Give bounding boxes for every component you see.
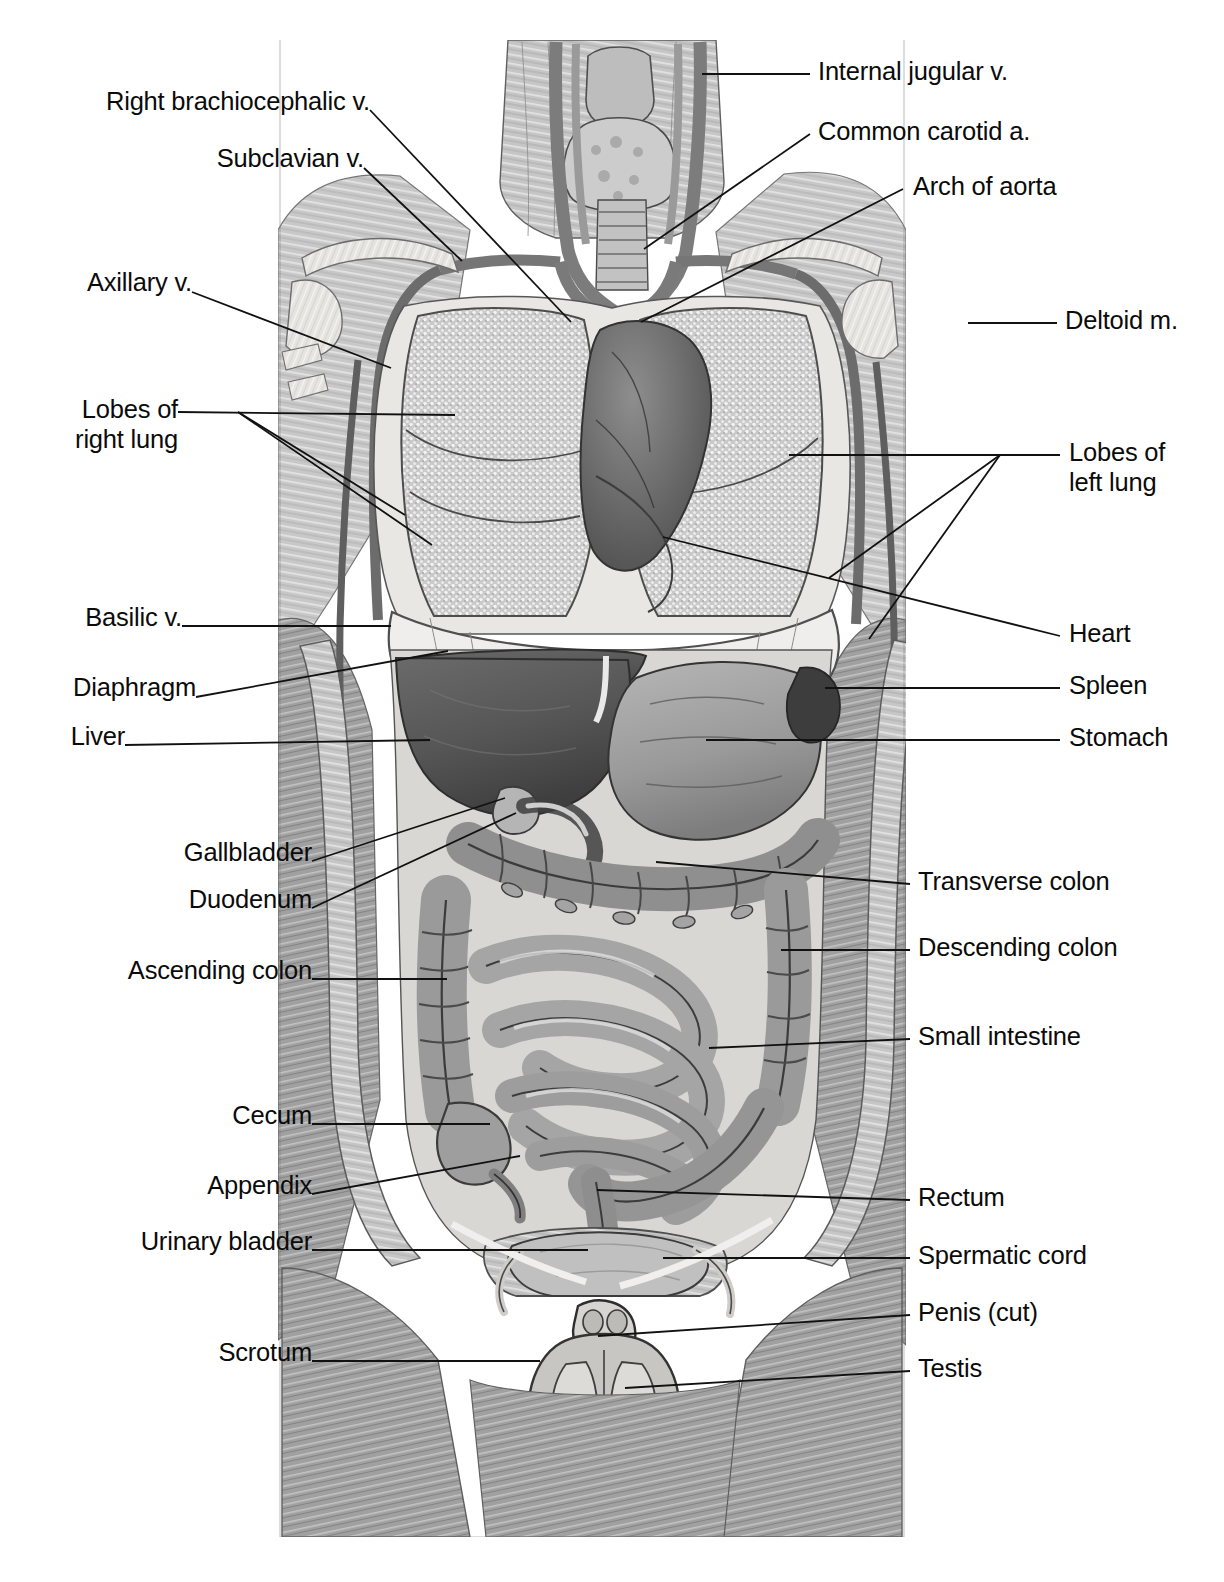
label-scrotum-line-1: Scrotum — [218, 1337, 312, 1367]
label-descending-colon: Descending colon — [918, 932, 1118, 962]
label-cecum-line-1: Cecum — [232, 1100, 312, 1130]
label-spermatic-cord: Spermatic cord — [918, 1240, 1087, 1270]
label-rectum-line-1: Rectum — [918, 1182, 1005, 1212]
label-basilic-v: Basilic v. — [85, 602, 182, 632]
label-gallbladder: Gallbladder — [184, 837, 312, 867]
label-scrotum: Scrotum — [218, 1337, 312, 1367]
label-basilic-v-line-1: Basilic v. — [85, 602, 182, 632]
label-transverse-colon-line-1: Transverse colon — [918, 866, 1109, 896]
label-lobes-of-right-lung-line-1: Lobes of — [75, 394, 178, 424]
label-testis: Testis — [918, 1353, 982, 1383]
label-lobes-of-left-lung-line-2: left lung — [1069, 467, 1165, 497]
label-penis-cut-line-1: Penis (cut) — [918, 1297, 1038, 1327]
label-diaphragm: Diaphragm — [73, 672, 196, 702]
perineal-muscles — [470, 1380, 740, 1537]
label-right-brachiocephalic-v: Right brachiocephalic v. — [106, 86, 370, 116]
label-liver-line-1: Liver — [71, 721, 125, 751]
label-arch-of-aorta-line-1: Arch of aorta — [913, 171, 1056, 201]
label-ascending-colon-line-1: Ascending colon — [128, 955, 312, 985]
label-heart: Heart — [1069, 618, 1130, 648]
label-stomach: Stomach — [1069, 722, 1168, 752]
label-lobes-of-right-lung: Lobes ofright lung — [75, 394, 178, 454]
label-ascending-colon: Ascending colon — [128, 955, 312, 985]
label-lobes-of-left-lung: Lobes ofleft lung — [1069, 437, 1165, 497]
label-gallbladder-line-1: Gallbladder — [184, 837, 312, 867]
label-internal-jugular-v: Internal jugular v. — [818, 56, 1008, 86]
trachea — [596, 200, 648, 290]
label-internal-jugular-v-line-1: Internal jugular v. — [818, 56, 1008, 86]
label-deltoid-m-line-1: Deltoid m. — [1065, 305, 1178, 335]
label-lobes-of-left-lung-line-1: Lobes of — [1069, 437, 1165, 467]
label-spleen: Spleen — [1069, 670, 1147, 700]
label-axillary-v-line-1: Axillary v. — [87, 267, 192, 297]
label-spleen-line-1: Spleen — [1069, 670, 1147, 700]
label-common-carotid-a: Common carotid a. — [818, 116, 1030, 146]
label-diaphragm-line-1: Diaphragm — [73, 672, 196, 702]
label-small-intestine: Small intestine — [918, 1021, 1081, 1051]
illustration-body — [278, 40, 924, 1537]
label-heart-line-1: Heart — [1069, 618, 1130, 648]
anatomy-figure-page: Right brachiocephalic v.Subclavian v.Axi… — [0, 0, 1224, 1582]
spleen — [787, 667, 840, 742]
label-transverse-colon: Transverse colon — [918, 866, 1109, 896]
label-lobes-of-right-lung-line-2: right lung — [75, 424, 178, 454]
label-deltoid-m: Deltoid m. — [1065, 305, 1178, 335]
label-right-brachiocephalic-v-line-1: Right brachiocephalic v. — [106, 86, 370, 116]
label-stomach-line-1: Stomach — [1069, 722, 1168, 752]
label-arch-of-aorta: Arch of aorta — [913, 171, 1056, 201]
label-urinary-bladder: Urinary bladder — [141, 1226, 312, 1256]
label-small-intestine-line-1: Small intestine — [918, 1021, 1081, 1051]
right-lung — [401, 308, 597, 616]
label-duodenum-line-1: Duodenum — [189, 884, 312, 914]
label-subclavian-v-line-1: Subclavian v. — [217, 143, 364, 173]
label-penis-cut: Penis (cut) — [918, 1297, 1038, 1327]
label-appendix: Appendix — [207, 1170, 312, 1200]
label-urinary-bladder-line-1: Urinary bladder — [141, 1226, 312, 1256]
label-subclavian-v: Subclavian v. — [217, 143, 364, 173]
label-descending-colon-line-1: Descending colon — [918, 932, 1118, 962]
label-appendix-line-1: Appendix — [207, 1170, 312, 1200]
label-liver: Liver — [71, 721, 125, 751]
label-common-carotid-a-line-1: Common carotid a. — [818, 116, 1030, 146]
label-rectum: Rectum — [918, 1182, 1005, 1212]
larynx — [586, 47, 654, 128]
torso-anatomy-illustration — [0, 0, 1224, 1582]
label-cecum: Cecum — [232, 1100, 312, 1130]
label-spermatic-cord-line-1: Spermatic cord — [918, 1240, 1087, 1270]
label-axillary-v: Axillary v. — [87, 267, 192, 297]
label-testis-line-1: Testis — [918, 1353, 982, 1383]
label-duodenum: Duodenum — [189, 884, 312, 914]
